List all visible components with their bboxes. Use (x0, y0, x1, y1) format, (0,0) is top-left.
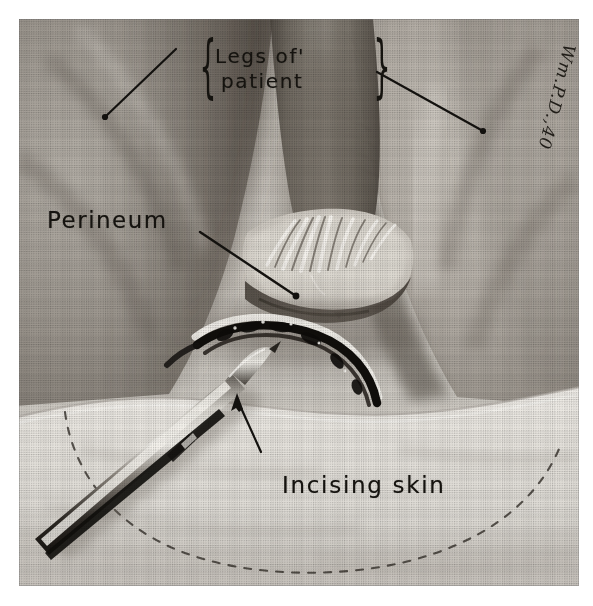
illustration-page: { } Legs of' patient Perineum Incising s… (0, 0, 593, 606)
label-incising-skin: Incising skin (282, 474, 446, 497)
label-perineum: Perineum (47, 209, 168, 232)
label-legs-of-patient: Legs of' patient (215, 46, 305, 91)
illustration-plate: { } Legs of' patient Perineum Incising s… (19, 19, 579, 586)
label-legs-line2: patient (221, 71, 305, 91)
brace-close-icon: } (373, 24, 390, 106)
label-legs-line1: Legs of' (215, 44, 305, 68)
brace-open-icon: { (199, 24, 216, 106)
